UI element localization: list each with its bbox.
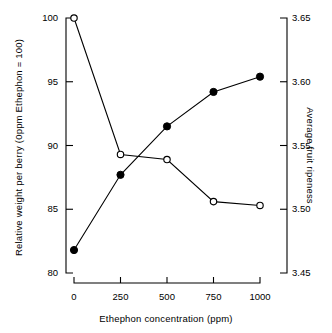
data-point-filled bbox=[163, 123, 170, 130]
x-axis-title: Ethephon concentration (ppm) bbox=[46, 313, 286, 324]
data-point-open bbox=[117, 151, 123, 157]
y-axis-left-tick-label: 95 bbox=[30, 76, 58, 87]
data-point-open bbox=[257, 202, 263, 208]
y-axis-right-title: Average fruit ripeness bbox=[305, 61, 316, 251]
data-point-filled bbox=[210, 88, 217, 95]
y-axis-right-tick-label: 3.55 bbox=[292, 140, 328, 151]
x-axis-tick-label: 250 bbox=[99, 291, 143, 302]
y-axis-left-tick-label: 90 bbox=[30, 140, 58, 151]
x-axis-tick-label: 0 bbox=[52, 291, 96, 302]
series-line-1 bbox=[74, 18, 260, 205]
chart-plot-area bbox=[0, 0, 332, 333]
y-axis-right-tick-label: 3.45 bbox=[292, 267, 328, 278]
series-line-2 bbox=[74, 77, 260, 250]
y-axis-right-tick-label: 3.65 bbox=[292, 12, 328, 23]
y-axis-right-tick-label: 3.50 bbox=[292, 203, 328, 214]
data-point-open bbox=[210, 198, 216, 204]
data-point-open bbox=[164, 156, 170, 162]
y-axis-left-tick-label: 85 bbox=[30, 203, 58, 214]
chart-figure: Relative weight per berry (0ppm Ethephon… bbox=[0, 0, 332, 333]
y-axis-left-title: Relative weight per berry (0ppm Ethephon… bbox=[13, 26, 24, 270]
y-axis-left-tick-label: 80 bbox=[30, 267, 58, 278]
data-point-filled bbox=[256, 73, 263, 80]
data-point-filled bbox=[70, 246, 77, 253]
data-point-open bbox=[71, 15, 77, 21]
x-axis-tick-label: 500 bbox=[145, 291, 189, 302]
data-point-filled bbox=[117, 171, 124, 178]
x-axis-tick-label: 1000 bbox=[238, 291, 282, 302]
y-axis-right-tick-label: 3.60 bbox=[292, 76, 328, 87]
y-axis-left-tick-label: 100 bbox=[30, 12, 58, 23]
x-axis-tick-label: 750 bbox=[192, 291, 236, 302]
